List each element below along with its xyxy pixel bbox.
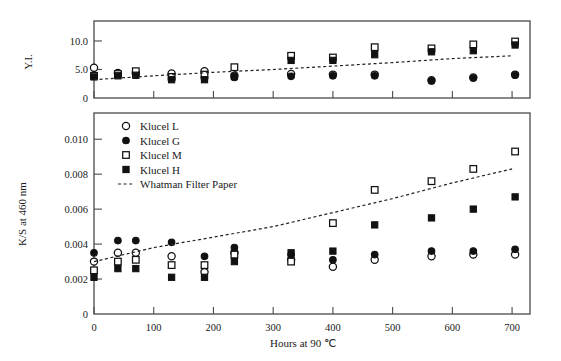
upper-point-klucel-g [288, 73, 295, 80]
two-panel-scatter-chart: 05.010.0Y.I.00.0020.0040.0060.0080.010K/… [0, 0, 561, 361]
x-tick-label: 200 [206, 322, 222, 333]
lower-point-klucel-l [114, 249, 121, 256]
upper-point-klucel-h [169, 77, 175, 83]
x-tick-label: 700 [504, 322, 520, 333]
upper-point-klucel-g [371, 73, 378, 80]
upper-point-klucel-g [470, 75, 477, 82]
legend-label: Klucel G [140, 135, 180, 147]
upper-point-klucel-m [231, 64, 238, 71]
lower-y-tick-label: 0 [83, 309, 88, 320]
lower-point-klucel-g [428, 248, 435, 255]
lower-y-tick-label: 0.002 [64, 274, 88, 285]
upper-point-klucel-h [288, 57, 294, 63]
legend-label: Klucel H [140, 164, 180, 176]
legend-marker-filled-square [123, 166, 129, 172]
upper-panel-frame [94, 21, 530, 98]
x-tick-label: 400 [325, 322, 341, 333]
lower-y-tick-label: 0.010 [64, 134, 88, 145]
lower-point-klucel-h [288, 250, 294, 256]
upper-point-klucel-h [512, 42, 518, 48]
lower-point-klucel-m [168, 262, 175, 269]
upper-point-klucel-l [90, 64, 97, 71]
upper-point-klucel-g [428, 78, 435, 85]
lower-point-klucel-m [91, 267, 98, 274]
lower-point-klucel-h [231, 259, 237, 265]
lower-point-klucel-m [330, 220, 337, 227]
upper-point-klucel-h [201, 77, 207, 83]
x-axis-label: Hours at 90 ℃ [270, 337, 336, 349]
figure-container: 05.010.0Y.I.00.0020.0040.0060.0080.010K/… [0, 0, 561, 361]
x-tick-label: 600 [444, 322, 460, 333]
upper-trendline-whatman-filter-paper [94, 56, 512, 80]
lower-point-klucel-g [231, 244, 238, 251]
upper-point-klucel-h [372, 52, 378, 58]
upper-y-tick-label: 10.0 [70, 36, 88, 47]
lower-point-klucel-h [372, 222, 378, 228]
lower-point-klucel-m [115, 258, 122, 265]
lower-point-klucel-h [169, 274, 175, 280]
lower-point-klucel-h [512, 194, 518, 200]
lower-point-klucel-g [115, 237, 122, 244]
upper-point-klucel-m [470, 41, 477, 48]
legend-marker-open-square [123, 152, 130, 159]
lower-point-klucel-g [470, 248, 477, 255]
upper-y-tick-label: 0 [83, 93, 88, 104]
upper-point-klucel-h [231, 73, 237, 79]
upper-y-tick-label: 5.0 [75, 64, 88, 75]
lower-point-klucel-l [329, 263, 336, 270]
upper-point-klucel-h [428, 49, 434, 55]
upper-y-axis-label: Y.I. [22, 54, 34, 70]
lower-point-klucel-m [288, 258, 295, 265]
lower-point-klucel-g [133, 237, 140, 244]
lower-point-klucel-h [470, 206, 476, 212]
lower-point-klucel-h [115, 266, 121, 272]
x-tick-label: 500 [385, 322, 401, 333]
x-tick-label: 0 [91, 322, 96, 333]
upper-point-klucel-g [330, 73, 337, 80]
lower-point-klucel-m [133, 257, 140, 264]
lower-point-klucel-g [201, 253, 208, 260]
lower-point-klucel-m [231, 251, 238, 258]
lower-point-klucel-h [428, 215, 434, 221]
lower-point-klucel-m [470, 166, 477, 173]
lower-point-klucel-g [91, 250, 98, 257]
legend-label: Klucel L [140, 120, 179, 132]
lower-point-klucel-h [91, 274, 97, 280]
lower-point-klucel-g [371, 251, 378, 258]
legend-marker-open-circle [122, 122, 129, 129]
legend-label: Whatman Filter Paper [140, 178, 237, 190]
lower-y-tick-label: 0.006 [64, 204, 88, 215]
legend-label: Klucel M [140, 149, 182, 161]
lower-point-klucel-m [371, 187, 378, 194]
lower-y-tick-label: 0.004 [64, 239, 88, 250]
lower-point-klucel-h [133, 266, 139, 272]
upper-point-klucel-m [371, 44, 378, 51]
legend-marker-filled-circle [123, 137, 130, 144]
lower-y-tick-label: 0.008 [64, 169, 88, 180]
lower-point-klucel-l [168, 253, 175, 260]
lower-point-klucel-m [201, 262, 208, 269]
x-tick-label: 100 [146, 322, 162, 333]
lower-point-klucel-g [330, 257, 337, 264]
x-tick-label: 300 [265, 322, 281, 333]
lower-point-klucel-g [512, 246, 519, 253]
lower-point-klucel-h [201, 274, 207, 280]
lower-point-klucel-h [330, 248, 336, 254]
upper-point-klucel-h [470, 48, 476, 54]
lower-point-klucel-m [428, 178, 435, 185]
upper-point-klucel-h [330, 57, 336, 63]
lower-point-klucel-m [512, 148, 519, 155]
lower-y-axis-label: K/S at 460 nm [16, 182, 28, 246]
upper-point-klucel-g [512, 72, 519, 79]
